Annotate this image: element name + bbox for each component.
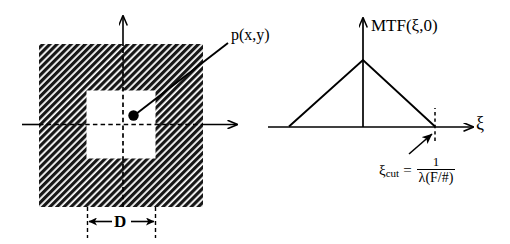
cutoff-subscript: cut xyxy=(386,167,399,179)
cutoff-fraction: 1 λ(F/#) xyxy=(417,155,456,185)
mtf-panel xyxy=(268,18,473,154)
cutoff-frequency-annotation: ξcut = 1 λ(F/#) xyxy=(379,155,455,185)
xi-axis-label: ξ xyxy=(476,114,484,132)
cutoff-pointer-arrow xyxy=(409,134,432,154)
aperture-width-label: D xyxy=(114,213,126,230)
cutoff-symbol: ξ xyxy=(379,162,386,179)
pupil-function-label: p(x,y) xyxy=(231,27,270,43)
mtf-axis-label: MTF(ξ,0) xyxy=(371,17,438,34)
cutoff-numerator: 1 xyxy=(429,155,444,169)
cutoff-denominator: λ(F/#) xyxy=(417,170,456,185)
mtf-curve-triangle xyxy=(289,60,435,127)
figure-root: p(x,y) MTF(ξ,0) ξ D ξcut = 1 λ(F/#) xyxy=(0,0,510,244)
cutoff-equals-sign: = xyxy=(403,162,411,179)
pupil-panel xyxy=(22,16,237,238)
pupil-center-dot xyxy=(128,110,138,120)
